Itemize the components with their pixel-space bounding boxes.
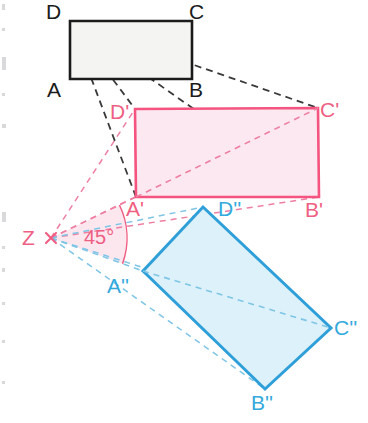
margin-mark (2, 340, 5, 343)
margin-mark (2, 4, 5, 10)
vertex-label-D: D (46, 1, 61, 22)
vertex-label-D-double-prime: D'' (218, 198, 241, 219)
vertex-label-A: A (47, 79, 61, 100)
margin-mark (2, 57, 6, 70)
margin-mark (2, 381, 5, 384)
margin-mark (2, 268, 5, 272)
margin-mark (2, 124, 6, 128)
vertex-label-A-prime: A' (126, 198, 144, 219)
original-rectangle (70, 21, 192, 79)
vertex-label-C-prime: C' (320, 99, 339, 120)
vertex-label-B: B (189, 79, 203, 100)
margin-mark (2, 93, 5, 96)
vertex-label-B-double-prime: B'' (251, 392, 273, 413)
centre-label: Z (22, 227, 35, 248)
margin-mark (2, 246, 5, 249)
vertex-label-B-prime: B' (305, 199, 323, 220)
margin-mark (2, 302, 5, 305)
second-image-rectangle (143, 207, 331, 389)
vertex-label-C-double-prime: C'' (334, 317, 357, 338)
vertex-label-A-double-prime: A'' (107, 275, 129, 296)
geometry-figure: DCABD'C'A'B'D''C''A''B'' 45° Z (0, 0, 368, 423)
margin-mark (2, 212, 6, 222)
vertex-label-C: C (189, 1, 204, 22)
vertex-label-D-prime: D' (110, 101, 129, 122)
angle-label: 45° (84, 226, 114, 249)
margin-mark (2, 28, 5, 31)
